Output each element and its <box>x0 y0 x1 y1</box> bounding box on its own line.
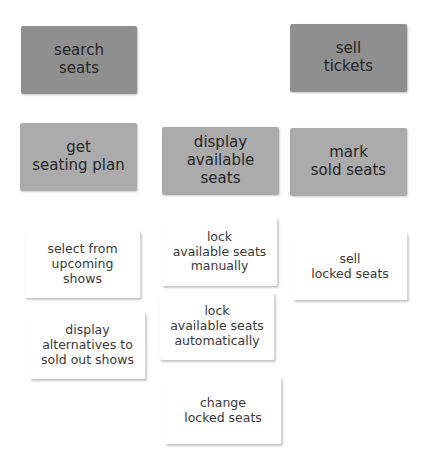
story-card-lock-seats-manually: lock available seats manually <box>162 218 278 286</box>
story-label: display alternatives to sold out shows <box>41 323 134 367</box>
task-label: get seating plan <box>32 139 124 174</box>
activity-label: sell tickets <box>324 40 373 75</box>
task-label: display available seats <box>187 134 255 187</box>
story-card-display-alternatives: display alternatives to sold out shows <box>30 312 146 379</box>
story-card-select-from-upcoming-shows: select from upcoming shows <box>25 231 141 298</box>
task-card-mark-sold-seats: mark sold seats <box>290 128 407 196</box>
activity-label: search seats <box>54 42 104 77</box>
activity-card-sell-tickets: sell tickets <box>290 24 407 92</box>
story-card-lock-seats-automatically: lock available seats automatically <box>160 293 275 360</box>
story-label: sell locked seats <box>311 252 389 282</box>
story-label: lock available seats manually <box>173 230 267 274</box>
task-card-display-available-seats: display available seats <box>162 127 279 195</box>
story-label: lock available seats automatically <box>170 304 264 348</box>
task-label: mark sold seats <box>311 144 386 179</box>
activity-card-search-seats: search seats <box>21 26 137 94</box>
story-label: select from upcoming shows <box>47 242 117 286</box>
task-card-get-seating-plan: get seating plan <box>20 123 137 191</box>
story-card-sell-locked-seats: sell locked seats <box>293 233 408 300</box>
story-label: change locked seats <box>184 396 262 426</box>
story-card-change-locked-seats: change locked seats <box>165 377 282 444</box>
